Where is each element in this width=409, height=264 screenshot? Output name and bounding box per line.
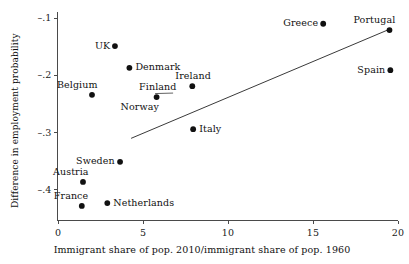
x-tick-label: 5 xyxy=(123,228,163,238)
y-axis-title: Difference in employment probability xyxy=(11,33,20,208)
point-label-greece: Greece xyxy=(283,18,318,28)
data-point xyxy=(154,94,160,100)
point-label-belgium: Belgium xyxy=(57,80,98,90)
point-label-denmark: Denmark xyxy=(135,62,180,72)
point-label-finland: Finland xyxy=(139,82,176,92)
x-tick-label: 10 xyxy=(208,228,248,238)
data-point xyxy=(104,200,110,206)
data-point xyxy=(117,159,123,165)
point-label-netherlands: Netherlands xyxy=(113,198,174,208)
point-label-norway: Norway xyxy=(121,102,159,112)
point-label-uk: UK xyxy=(95,41,110,51)
leader-lines-group xyxy=(155,93,173,94)
y-tick-label: –.2 xyxy=(37,70,51,80)
y-tick-label: –.4 xyxy=(37,185,51,195)
x-tick-label: 20 xyxy=(378,228,409,238)
point-label-spain: Spain xyxy=(357,65,385,75)
x-tick-label: 15 xyxy=(293,228,333,238)
point-label-italy: Italy xyxy=(199,124,221,134)
point-label-portugal: Portugal xyxy=(354,15,396,25)
data-point xyxy=(189,83,195,89)
point-label-sweden: Sweden xyxy=(76,156,115,166)
point-label-austria: Austria xyxy=(53,167,89,177)
leader-line-finland xyxy=(155,93,173,94)
data-point xyxy=(80,179,86,185)
data-point xyxy=(190,126,196,132)
x-axis-title: Immigrant share of pop. 2010/immigrant s… xyxy=(0,245,404,255)
point-label-ireland: Ireland xyxy=(175,71,211,81)
data-point xyxy=(387,67,393,73)
data-point xyxy=(320,21,326,27)
data-point xyxy=(89,92,95,98)
data-point xyxy=(126,65,132,71)
data-point xyxy=(387,27,393,33)
x-tick-label: 0 xyxy=(38,228,78,238)
data-point xyxy=(79,203,85,209)
point-label-france: France xyxy=(54,191,88,201)
data-points-group xyxy=(79,21,393,209)
data-point xyxy=(112,43,118,49)
y-tick-label: –.1 xyxy=(37,13,51,23)
y-tick-label: –.3 xyxy=(37,128,51,138)
